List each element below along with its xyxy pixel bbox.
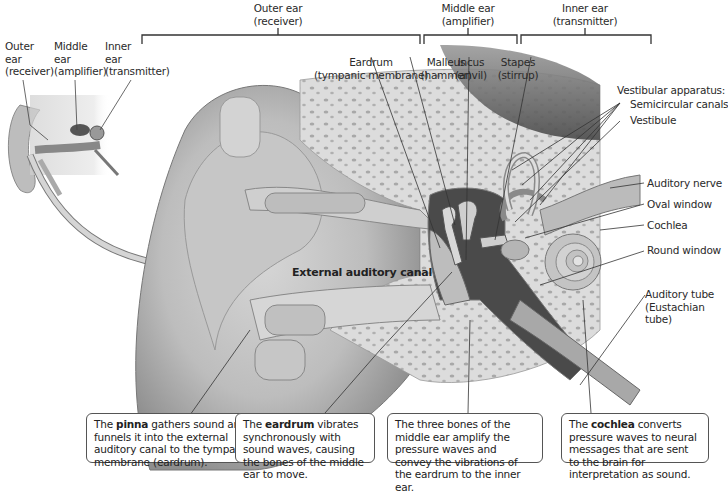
label-name: Eardrum [310,56,432,69]
header-title: Inner ear [545,2,625,15]
inset-label-inner-ear: Inner ear (transmitter) [105,40,170,78]
inset-label-line: ear [5,53,54,66]
label-line: Auditory tube [645,288,714,301]
header-role: (transmitter) [545,15,625,28]
inset-label-line: Inner [105,40,170,53]
label-line: (Eustachian [645,301,714,314]
label-stapes: Stapes (stirrup) [493,56,543,81]
callout-cochlea: The cochlea converts pressure waves to n… [561,413,709,463]
label-name: Stapes [493,56,543,69]
label-alt: (stirrup) [493,69,543,82]
callout-text: The [569,418,591,430]
label-eardrum: Eardrum (tympanic membrane) [310,56,432,81]
cochlea-spiral [545,234,601,290]
header-role: (amplifier) [430,15,506,28]
inset-label-line: Middle [54,40,107,53]
label-incus: Incus (anvil) [449,56,493,81]
inset-label-line: (transmitter) [105,65,170,78]
label-auditory-tube: Auditory tube (Eustachian tube) [645,288,714,326]
callout-text: The [243,418,265,430]
callout-text: The [94,418,116,430]
label-alt: (anvil) [449,69,493,82]
inset-ear-drawing [8,95,118,195]
header-inner-ear: Inner ear (transmitter) [545,2,625,27]
section-brackets [142,28,651,44]
header-middle-ear: Middle ear (amplifier) [430,2,506,27]
callout-bold-term: pinna [116,418,148,430]
callout-text: The three bones of the middle ear amplif… [395,418,520,493]
label-vestibule: Vestibule [630,114,676,127]
label-cochlea: Cochlea [647,219,688,232]
callout-bold-term: eardrum [265,418,314,430]
header-outer-ear: Outer ear (receiver) [240,2,316,27]
label-semicircular-canals: Semicircular canals [630,98,728,111]
label-vestibular-apparatus: Vestibular apparatus: [617,84,725,97]
label-oval-window: Oval window [647,198,712,211]
label-alt: (tympanic membrane) [310,69,432,82]
header-title: Middle ear [430,2,506,15]
inset-label-line: ear [105,53,170,66]
label-round-window: Round window [647,244,721,257]
callout-ossicles: The three bones of the middle ear amplif… [387,413,543,463]
label-auditory-nerve: Auditory nerve [647,177,722,190]
label-line: tube) [645,313,714,326]
inset-label-line: ear [54,53,107,66]
header-title: Outer ear [240,2,316,15]
inset-label-line: (receiver) [5,65,54,78]
label-external-auditory-canal: External auditory canal [292,266,432,279]
inset-label-line: Outer [5,40,54,53]
inset-label-middle-ear: Middle ear (amplifier) [54,40,107,78]
label-name: Incus [449,56,493,69]
inset-label-line: (amplifier) [54,65,107,78]
callout-eardrum: The eardrum vibrates synchronously with … [235,413,375,463]
inset-label-outer-ear: Outer ear (receiver) [5,40,54,78]
header-role: (receiver) [240,15,316,28]
callout-bold-term: cochlea [591,418,635,430]
